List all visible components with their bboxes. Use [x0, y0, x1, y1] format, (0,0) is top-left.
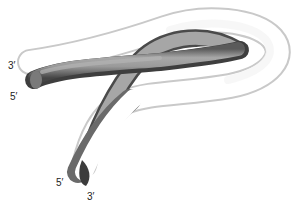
label-bottom-3prime: 3′: [87, 192, 94, 202]
label-top-5prime: 5′: [10, 92, 17, 102]
label-top-3prime: 3′: [8, 61, 15, 71]
strand-diagram: [0, 0, 298, 209]
label-bottom-5prime: 5′: [56, 178, 63, 188]
white-strand-front: [78, 98, 134, 186]
grey-strand-end-cap: [30, 71, 42, 89]
